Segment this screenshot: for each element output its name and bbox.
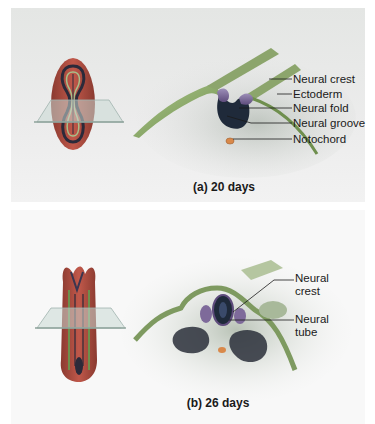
- caption-b: (b) 26 days: [187, 396, 250, 410]
- label-neural-fold: Neural fold: [293, 102, 349, 115]
- label-neural-crest-b-line2: crest: [295, 285, 320, 298]
- label-neural-tube: Neural: [295, 313, 329, 326]
- caption-a: (a) 20 days: [193, 180, 255, 194]
- label-neural-crest: Neural crest: [293, 73, 355, 86]
- label-neural-groove: Neural groove: [293, 117, 365, 130]
- label-ectoderm: Ectoderm: [293, 88, 342, 101]
- label-neural-crest-b: Neural: [295, 272, 329, 285]
- label-notochord: Notochord: [293, 133, 346, 146]
- section-plane: [34, 100, 124, 122]
- panel-b-26-days: Neural crest Neural tube (b) 26 days: [11, 210, 365, 424]
- section-plane: [35, 308, 126, 328]
- label-neural-tube-line2: tube: [295, 326, 317, 339]
- panel-a-20-days: Neural crest Ectoderm Neural fold Neural…: [11, 8, 365, 202]
